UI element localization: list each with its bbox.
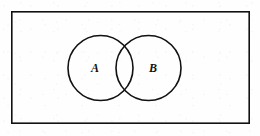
set-a-circle [68, 36, 133, 101]
venn-diagram-canvas: A B [0, 0, 260, 136]
universal-set-rectangle [12, 12, 249, 123]
set-a-label: A [90, 61, 99, 75]
venn-diagram-figure: A B [0, 0, 260, 136]
set-b-label: B [148, 61, 157, 75]
